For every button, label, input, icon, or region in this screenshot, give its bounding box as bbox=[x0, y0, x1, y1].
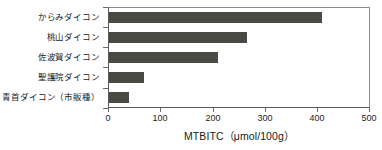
y-axis-label-cell: からみダイコン bbox=[0, 7, 104, 27]
x-axis-tick-mark bbox=[108, 108, 109, 112]
y-axis-label-cell: 聖護院ダイコン bbox=[0, 68, 104, 88]
y-axis-label-cell: 青首ダイコン（市販種） bbox=[0, 88, 104, 108]
x-axis-tick-label: 200 bbox=[205, 113, 220, 123]
x-axis-tick-mark bbox=[213, 108, 214, 112]
y-axis-tick-label: 聖護院ダイコン bbox=[38, 73, 100, 82]
bar-row bbox=[109, 67, 369, 87]
x-axis-tick-mark bbox=[317, 108, 318, 112]
bar-row bbox=[109, 87, 369, 107]
y-axis-category-labels: からみダイコン 桃山ダイコン 佐波賀ダイコン 聖護院ダイコン 青首ダイコン（市販… bbox=[0, 7, 104, 108]
y-axis-label-cell: 佐波賀ダイコン bbox=[0, 47, 104, 67]
bar[interactable] bbox=[109, 32, 247, 43]
y-axis-tick-label: 佐波賀ダイコン bbox=[38, 53, 100, 62]
y-axis-label-cell: 桃山ダイコン bbox=[0, 27, 104, 47]
y-axis-tick-label: 青首ダイコン（市販種） bbox=[2, 93, 100, 102]
x-axis-tick-mark bbox=[369, 108, 370, 112]
x-axis-tick-mark bbox=[160, 108, 161, 112]
bar-series bbox=[109, 8, 369, 107]
plot-area bbox=[108, 7, 370, 108]
bar[interactable] bbox=[109, 52, 218, 63]
x-axis-tick-label: 500 bbox=[361, 113, 376, 123]
x-axis-tick-label: 400 bbox=[309, 113, 324, 123]
x-axis-tick-label: 0 bbox=[105, 113, 110, 123]
bar[interactable] bbox=[109, 12, 322, 23]
bar[interactable] bbox=[109, 72, 144, 83]
y-axis-tick-label: 桃山ダイコン bbox=[47, 33, 100, 42]
x-axis-tick-label: 100 bbox=[152, 113, 167, 123]
x-axis-title: MTBITC（μmol/100g） bbox=[108, 128, 370, 143]
bar-chart: からみダイコン 桃山ダイコン 佐波賀ダイコン 聖護院ダイコン 青首ダイコン（市販… bbox=[0, 0, 382, 150]
bar-row bbox=[109, 28, 369, 48]
bar-row bbox=[109, 48, 369, 68]
y-axis-tick-label: からみダイコン bbox=[38, 13, 100, 22]
bar-row bbox=[109, 8, 369, 28]
x-axis-tick-label: 300 bbox=[257, 113, 272, 123]
x-axis-tick-mark bbox=[265, 108, 266, 112]
bar[interactable] bbox=[109, 92, 129, 103]
